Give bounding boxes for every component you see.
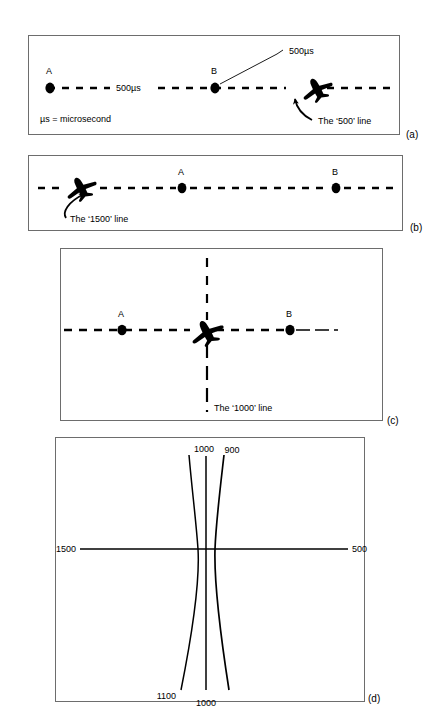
panel-d-label-top-900: 900 xyxy=(224,445,239,455)
panel-b-station-b-dot xyxy=(332,183,341,193)
panel-a-tag: (a) xyxy=(406,129,418,140)
panel-a-station-a-label: A xyxy=(46,66,52,76)
panel-c-line-callout-label: The ‘1000’ line xyxy=(214,403,272,413)
panel-b-station-b-label: B xyxy=(332,167,338,177)
panel-a-station-b-label: B xyxy=(211,66,217,76)
panel-d-label-1500: 1500 xyxy=(56,544,76,554)
panel-d-label-bottom-1100: 1100 xyxy=(157,691,176,701)
figure-root: A B 500µs 500µs The ‘500’ line µs = micr… xyxy=(0,0,444,728)
panel-d-label-top-1000: 1000 xyxy=(194,444,214,454)
panel-d-tag: (d) xyxy=(368,693,380,704)
panel-d-border xyxy=(56,438,365,702)
panel-a-callout-label: 500µs xyxy=(289,46,314,56)
panel-b-tag: (b) xyxy=(410,222,422,233)
figure-svg: A B 500µs 500µs The ‘500’ line µs = micr… xyxy=(0,0,444,728)
panel-a-interval-label: 500µs xyxy=(116,83,141,93)
panel-c-station-a-dot xyxy=(117,325,126,335)
panel-c-station-b-dot xyxy=(285,325,294,335)
panel-a: A B 500µs 500µs The ‘500’ line µs = micr… xyxy=(29,36,400,135)
panel-d: 1500 500 1000 900 1100 1000 xyxy=(56,438,368,709)
panel-b: A B The ‘1500’ line xyxy=(29,156,403,231)
panel-d-label-bottom-1000: 1000 xyxy=(196,698,216,708)
panel-b-station-a-label: A xyxy=(178,167,184,177)
station-b-dot xyxy=(210,83,219,94)
panel-c-border xyxy=(61,249,383,421)
panel-c-tag: (c) xyxy=(387,415,399,426)
panel-c: A B The ‘1000’ line xyxy=(61,249,383,421)
station-a-dot xyxy=(45,83,54,94)
panel-c-station-b-label: B xyxy=(286,309,292,319)
panel-c-station-a-label: A xyxy=(118,309,124,319)
panel-b-station-a-dot xyxy=(178,183,187,193)
panel-a-line-callout-label: The ‘500’ line xyxy=(318,116,371,126)
panel-a-footnote: µs = microsecond xyxy=(40,114,111,124)
panel-b-line-callout-label: The ‘1500’ line xyxy=(70,214,128,224)
panel-d-label-500: 500 xyxy=(352,544,367,554)
